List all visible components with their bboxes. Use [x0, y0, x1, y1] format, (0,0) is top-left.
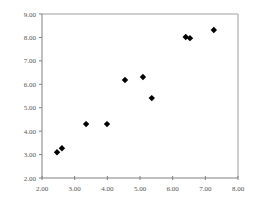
data-point-diamond-icon	[140, 74, 146, 80]
x-tick-label: 7.00	[199, 185, 212, 193]
x-tick-label: 4.00	[101, 185, 114, 193]
y-tick-label: 8.00	[24, 34, 37, 42]
y-tick-label: 3.00	[24, 151, 37, 159]
y-tick-label: 2.00	[24, 175, 37, 183]
y-tick-label: 7.00	[24, 57, 37, 65]
data-point-diamond-icon	[59, 145, 65, 151]
x-tick-label: 5.00	[134, 185, 147, 193]
y-tick-label: 4.00	[24, 128, 37, 136]
data-point-diamond-icon	[104, 121, 110, 127]
x-tick-label: 2.00	[36, 185, 49, 193]
x-tick-label: 3.00	[69, 185, 82, 193]
data-point-diamond-icon	[83, 121, 89, 127]
data-point-diamond-icon	[54, 149, 60, 155]
plot-frame	[42, 14, 238, 178]
data-point-diamond-icon	[122, 77, 128, 83]
data-point-diamond-icon	[149, 95, 155, 101]
x-tick-label: 8.00	[232, 185, 245, 193]
y-tick-label: 6.00	[24, 81, 37, 89]
data-points	[54, 27, 217, 156]
y-tick-label: 9.00	[24, 11, 37, 19]
x-tick-label: 6.00	[167, 185, 180, 193]
y-tick-label: 5.00	[24, 104, 37, 112]
y-axis: 2.003.004.005.006.007.008.009.00	[24, 11, 42, 183]
data-point-diamond-icon	[211, 27, 217, 33]
scatter-chart: 2.003.004.005.006.007.008.009.00 2.003.0…	[0, 0, 257, 206]
x-axis: 2.003.004.005.006.007.008.00	[36, 176, 245, 193]
